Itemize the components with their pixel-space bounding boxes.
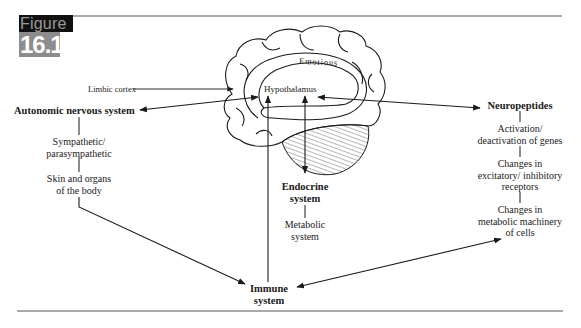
arrow-hypothalamus-autonomic (140, 97, 258, 110)
receptors-line3: receptors (470, 181, 570, 193)
receptors-node: Changes in excitatory/ inhibitory recept… (470, 158, 570, 193)
receptors-line1: Changes in (470, 158, 570, 170)
activation-line2: deactivation of genes (470, 135, 570, 147)
neuropeptides-node: Neuropeptides (480, 100, 560, 112)
sympathetic-node: Sympathetic/ parasympathetic (36, 136, 122, 159)
metabolic-machinery-node: Changes in metabolic machinery of cells (470, 204, 570, 239)
sympathetic-line1: Sympathetic/ (36, 136, 122, 148)
receptors-line2: excitatory/ inhibitory (470, 170, 570, 182)
endocrine-system-node: Endocrine system (275, 181, 335, 204)
endocrine-line2: system (275, 193, 335, 205)
activation-line1: Activation/ (470, 123, 570, 135)
skin-organs-line1: Skin and organs (36, 173, 122, 185)
machinery-line3: of cells (470, 227, 570, 239)
activation-node: Activation/ deactivation of genes (470, 123, 570, 146)
skin-organs-node: Skin and organs of the body (36, 173, 122, 196)
hypothalamus-label: Hypothalamus (264, 84, 317, 94)
emotions-label: Emotions (299, 56, 338, 68)
immune-system-node: Immune system (244, 283, 294, 306)
arrow-immune-metabolic-machinery (297, 239, 501, 287)
cerebellum-icon (282, 125, 369, 175)
metabolic-line2: system (275, 231, 335, 243)
metabolic-system-node: Metabolic system (275, 219, 335, 242)
skin-organs-line2: of the body (36, 185, 122, 197)
immune-line2: system (244, 295, 294, 307)
machinery-line2: metabolic machinery (470, 216, 570, 228)
machinery-line1: Changes in (470, 204, 570, 216)
immune-line1: Immune (244, 283, 294, 295)
metabolic-line1: Metabolic (275, 219, 335, 231)
endocrine-line1: Endocrine (275, 181, 335, 193)
limbic-cortex-label: Limbic cortex (88, 84, 136, 96)
sympathetic-line2: parasympathetic (36, 148, 122, 160)
arrow-hypothalamus-neuropeptides (318, 97, 480, 108)
autonomic-nervous-system-node: Autonomic nervous system (14, 105, 135, 117)
arrow-skin-immune (79, 197, 245, 284)
